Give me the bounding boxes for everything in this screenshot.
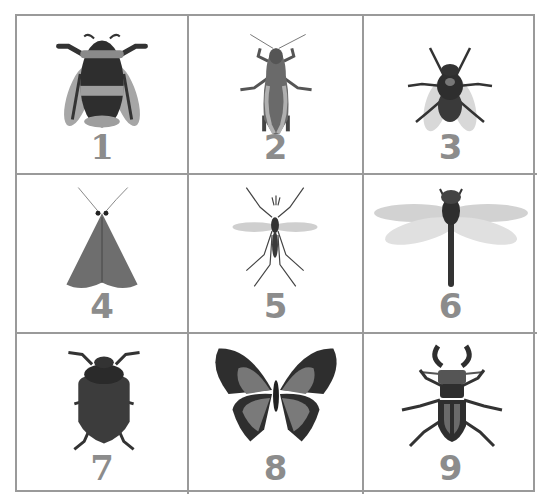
- insect-number: 9: [364, 450, 537, 486]
- grid-cell-9: 9: [364, 334, 537, 494]
- insect-number: 1: [17, 129, 187, 165]
- insect-number: 4: [17, 288, 187, 324]
- fly-icon: [364, 16, 537, 134]
- grid-cell-6: 6: [364, 175, 537, 334]
- insect-grid: 1 2: [15, 14, 535, 492]
- insect-number: 2: [189, 129, 362, 165]
- grid-cell-1: 1: [17, 16, 189, 175]
- bumblebee-icon: [17, 16, 187, 134]
- grid-cell-2: 2: [189, 16, 364, 175]
- moth-icon: [17, 175, 187, 293]
- insect-number: 6: [364, 288, 537, 324]
- insect-number: 8: [189, 450, 362, 486]
- insect-number: 7: [17, 450, 187, 486]
- grid-cell-8: 8: [189, 334, 364, 494]
- insect-number: 3: [364, 129, 537, 165]
- dragonfly-icon: [364, 175, 537, 293]
- grid-cell-7: 7: [17, 334, 189, 494]
- butterfly-icon: [189, 334, 362, 452]
- stag-beetle-icon: [364, 334, 537, 452]
- grid-cell-4: 4: [17, 175, 189, 334]
- beetle-icon: [17, 334, 187, 452]
- insect-number: 5: [189, 288, 362, 324]
- grid-cell-3: 3: [364, 16, 537, 175]
- grasshopper-icon: [189, 16, 362, 134]
- grid-cell-5: 5: [189, 175, 364, 334]
- mosquito-icon: [189, 175, 362, 293]
